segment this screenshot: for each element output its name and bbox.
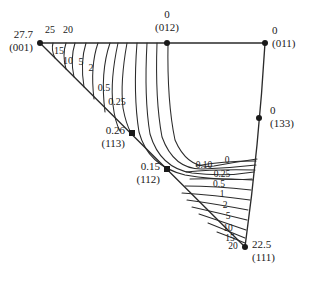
pole-133-index: (133) — [270, 117, 294, 130]
pole-113-value: 0.26 — [106, 124, 126, 136]
contour-label-lr-1: 1 — [220, 189, 225, 199]
contour-label-10: 10 — [63, 55, 73, 66]
pole-012-index: (012) — [155, 21, 179, 34]
pole-markers — [37, 40, 268, 250]
pole-001-value: 27.7 — [14, 28, 34, 40]
pole-001-marker — [37, 40, 43, 46]
contour-label-lr-0-5: 0.5 — [213, 179, 225, 189]
pole-133-value: 0 — [270, 104, 276, 116]
pole-012-value: 0 — [164, 8, 170, 20]
contour-label-lr-0-25: 0.25 — [214, 169, 231, 179]
pole-001-index: (001) — [9, 41, 33, 54]
contour-sweep-d — [168, 43, 257, 166]
pole-012-marker — [164, 40, 170, 46]
contour-lr-2 — [187, 200, 248, 210]
edge-011-111 — [245, 43, 265, 247]
contour-label-0-5: 0.5 — [98, 82, 111, 93]
pole-112-value: 0.15 — [141, 160, 161, 172]
contour-label-2: 2 — [89, 62, 94, 73]
contour-label-0-25: 0.25 — [108, 96, 126, 107]
contour-sweep-b — [146, 43, 254, 175]
pole-111-index: (111) — [252, 251, 275, 264]
pole-011-marker — [262, 40, 268, 46]
edge-001-111 — [40, 43, 245, 247]
contour-label-lr-2: 2 — [223, 200, 228, 210]
contour-group-mid — [112, 43, 131, 133]
contour-lr-1 — [182, 193, 250, 200]
contour-label-lr-0: 0 — [225, 155, 230, 165]
pole-133-marker — [256, 115, 262, 121]
pole-113-marker — [129, 130, 135, 136]
contour-label-25: 25 — [45, 24, 55, 35]
pole-111-marker — [242, 244, 248, 250]
inverse-pole-figure: 27.7(001)0(012)0(011)0(133)22.5(111)0.15… — [0, 0, 310, 281]
pole-111-value: 22.5 — [252, 238, 272, 250]
pole-011-index: (011) — [272, 37, 296, 50]
pole-113-index: (113) — [102, 137, 126, 150]
pole-112-index: (112) — [137, 173, 161, 186]
contour-label-20: 20 — [63, 24, 73, 35]
contour-label-5: 5 — [79, 56, 84, 67]
contour-label-lr-0-10: 0.10 — [196, 160, 213, 170]
contour-sweep-c — [157, 43, 256, 169]
contour-label-lr-10: 10 — [223, 223, 233, 233]
contour-label-lr-20: 20 — [228, 241, 238, 251]
stereographic-triangle-plot: 27.7(001)0(012)0(011)0(133)22.5(111)0.15… — [0, 0, 310, 281]
pole-112-marker — [164, 166, 170, 172]
contour-label-lr-5: 5 — [226, 211, 231, 221]
contour-0-25 — [122, 43, 131, 133]
contour-lr-5 — [192, 207, 247, 220]
pole-011-value: 0 — [272, 24, 278, 36]
